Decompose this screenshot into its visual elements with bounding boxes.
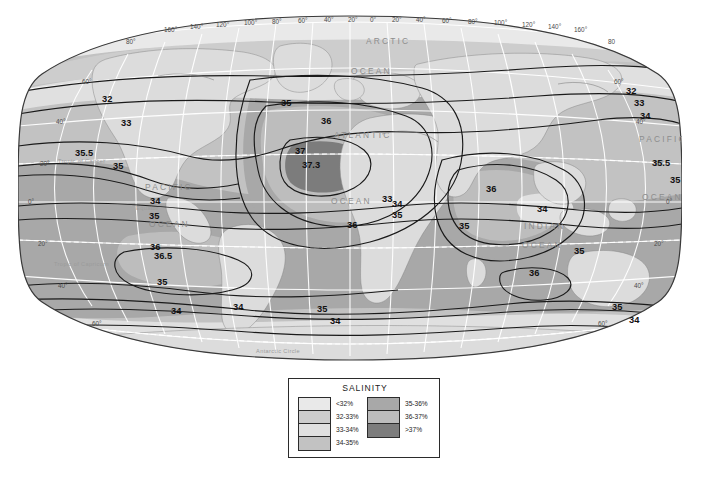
lat-label-left-60: 60° <box>82 78 92 85</box>
label-antarctic-circle: Antarctic Circle <box>256 348 300 354</box>
legend-swatch-stack-right <box>367 397 400 438</box>
lon-label-20w: 20° <box>348 16 358 23</box>
legend-swatch-33-34 <box>299 424 330 437</box>
figure-canvas: ARCTIC OCEAN ATLANTIC OCEAN PACIFIC OCEA… <box>0 0 717 494</box>
lon-label-60w: 60° <box>298 17 308 24</box>
ocean-label-pacific-right-ocean: OCEAN <box>642 192 682 202</box>
legend-swatch-stack-left <box>298 397 331 451</box>
contour-label: 36 <box>347 220 357 230</box>
contour-label: 35.5 <box>75 148 93 158</box>
lon-label-100e: 100° <box>494 19 508 26</box>
legend-title: SALINITY <box>289 383 441 393</box>
lat-label-right-40s: 40° <box>634 282 644 289</box>
lon-label-60e: 60° <box>442 17 452 24</box>
salinity-legend: SALINITY <32% 32-33% 33-34% 34-35% <box>288 378 440 458</box>
contour-label: 37 <box>295 146 305 156</box>
ocean-label-pacific-left: PACIFIC <box>145 182 193 192</box>
legend-swatch-32-33 <box>299 411 330 424</box>
contour-label: 36.5 <box>154 251 172 261</box>
contour-label: 33 <box>382 194 392 204</box>
legend-swatch-36-37 <box>368 411 399 424</box>
ocean-label-atlantic: ATLANTIC <box>334 130 391 140</box>
contour-label: 33 <box>121 118 131 128</box>
legend-label-33-34: 33-34% <box>336 423 359 436</box>
contour-label: 32 <box>626 86 636 96</box>
legend-swatch-lt32 <box>299 398 330 411</box>
lon-label-80w: 80° <box>272 18 282 25</box>
lon-label-40e: 40° <box>416 16 426 23</box>
contour-label: 35 <box>281 98 291 108</box>
contour-label: 34 <box>640 111 651 121</box>
lon-label-120w: 120° <box>216 21 230 28</box>
contour-label: 35 <box>113 161 123 171</box>
lat-label-left-40: 40° <box>56 118 66 125</box>
lat-label-right-60: 60° <box>614 78 624 85</box>
legend-label-34-35: 34-35% <box>336 436 359 449</box>
contour-label: 35 <box>670 175 680 185</box>
ocean-label-atlantic-ocean: OCEAN <box>331 196 372 206</box>
lon-label-160e: 160° <box>574 26 588 33</box>
legend-label-35-36: 35-36% <box>405 397 428 410</box>
contour-label: 35 <box>149 211 159 221</box>
ocean-label-indian: INDIAN <box>524 221 566 231</box>
contour-label: 34 <box>150 196 161 206</box>
contour-label: 33 <box>634 98 644 108</box>
contour-label: 34 <box>330 316 341 326</box>
lat-label-left-60s: 60° <box>92 320 102 327</box>
lon-label-140w: 140° <box>190 23 204 30</box>
world-salinity-map: ARCTIC OCEAN ATLANTIC OCEAN PACIFIC OCEA… <box>18 14 682 362</box>
contour-label: 36 <box>321 116 331 126</box>
legend-label-lt32: <32% <box>336 397 359 410</box>
contour-label: 35 <box>157 277 167 287</box>
contour-label: 36 <box>486 184 496 194</box>
lat-label-right-20s: 20° <box>654 240 664 247</box>
ocean-label-arctic: ARCTIC <box>366 36 410 46</box>
contour-label: 36 <box>529 268 539 278</box>
contour-label: 37.3 <box>302 160 320 170</box>
contour-label: 35 <box>459 221 469 231</box>
lat-label-left-0: 0° <box>28 198 35 205</box>
contour-label: 34 <box>392 199 403 209</box>
contour-label: 35.5 <box>652 158 670 168</box>
lat-label-left-20s: 20° <box>38 240 48 247</box>
lon-label-120e: 120° <box>522 21 536 28</box>
ocean-label-pacific-right: PACIFIC <box>639 134 682 144</box>
lat-label-left-40s: 40° <box>58 282 68 289</box>
label-tropic-of-cancer: Tropic of Cancer <box>58 158 106 164</box>
contour-label: 32 <box>102 94 112 104</box>
lat-label-left-80: 80° <box>126 38 136 45</box>
legend-labels-right: 35-36% 36-37% >37% <box>405 397 428 436</box>
lon-label-40w: 40° <box>324 16 334 23</box>
legend-swatch-35-36 <box>368 398 399 411</box>
lat-label-left-20: 20° <box>40 160 50 167</box>
lon-label-160w: 160° <box>164 26 178 33</box>
lat-label-right-0: 0° <box>666 198 673 205</box>
ocean-label-indian-ocean: OCEAN <box>522 240 563 250</box>
lat-label-right-80: 80 <box>608 38 616 45</box>
contour-label: 35 <box>392 210 402 220</box>
contour-label: 34 <box>233 302 244 312</box>
legend-label-36-37: 36-37% <box>405 410 428 423</box>
lat-label-right-60s: 60° <box>598 320 608 327</box>
contour-label: 35 <box>317 304 327 314</box>
legend-labels-left: <32% 32-33% 33-34% 34-35% <box>336 397 359 449</box>
contour-label: 34 <box>629 315 640 325</box>
contour-label: 34 <box>171 306 182 316</box>
legend-swatch-34-35 <box>299 437 330 450</box>
ocean-label-arctic-ocean: OCEAN <box>351 66 392 76</box>
lon-label-20e: 20° <box>392 16 402 23</box>
legend-label-32-33: 32-33% <box>336 410 359 423</box>
legend-swatch-gt37 <box>368 424 399 437</box>
contour-label: 35 <box>612 302 622 312</box>
contour-label: 35 <box>574 246 584 256</box>
legend-label-gt37: >37% <box>405 423 428 436</box>
lon-label-80e: 80° <box>468 18 478 25</box>
lon-label-0: 0° <box>370 16 377 23</box>
contour-label: 34 <box>537 204 548 214</box>
lon-label-140e: 140° <box>548 23 562 30</box>
label-tropic-of-capricorn: Tropic of Capricorn <box>54 261 109 267</box>
lon-label-100w: 100° <box>244 19 258 26</box>
